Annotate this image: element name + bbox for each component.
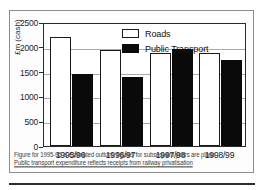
legend-item-public-transport: Public Transport [122, 42, 240, 55]
bar-roads-1997-98 [150, 53, 171, 146]
y-tick-1000: 1000 [20, 92, 43, 102]
bar-transport-1997-98 [172, 49, 193, 146]
chart-card: 2500 2000 1500 1000 500 0 £m (cash) [9, 10, 254, 173]
y-tick-label: 2500 [20, 18, 38, 28]
footnote-line-2: Public transport expenditure reflects re… [14, 159, 252, 167]
chart-legend: Roads Public Transport [122, 27, 240, 57]
bar-roads-1995-96 [50, 37, 71, 146]
bar-roads-1998-99 [199, 53, 220, 146]
bar-transport-1998-99 [221, 60, 242, 146]
chart-footnotes: Figure for 1995-96 is estimated outturn;… [14, 151, 252, 167]
y-tick-label: 1000 [20, 92, 38, 102]
y-tick-label: 500 [24, 117, 38, 127]
legend-swatch-transport-icon [122, 44, 139, 53]
legend-label-public-transport: Public Transport [145, 44, 208, 54]
bar-group-1995-96 [48, 24, 95, 146]
figure-root: 2500 2000 1500 1000 500 0 £m (cash) [0, 0, 264, 190]
bar-roads-1996-97 [100, 50, 121, 146]
y-tick-2000: 2000 [20, 43, 43, 53]
y-tick-label: 2000 [20, 43, 38, 53]
y-tick-2500: 2500 [20, 18, 43, 28]
bottom-divider [9, 183, 255, 185]
y-axis-title: £m (cash) [13, 19, 22, 55]
y-tick-1500: 1500 [20, 68, 43, 78]
bar-transport-1996-97 [122, 77, 143, 146]
legend-swatch-roads-icon [122, 29, 139, 38]
y-tick-500: 500 [24, 117, 43, 127]
y-tick-label: 1500 [20, 68, 38, 78]
legend-item-roads: Roads [122, 27, 240, 40]
bar-transport-1995-96 [72, 74, 93, 146]
legend-label-roads: Roads [145, 29, 171, 39]
